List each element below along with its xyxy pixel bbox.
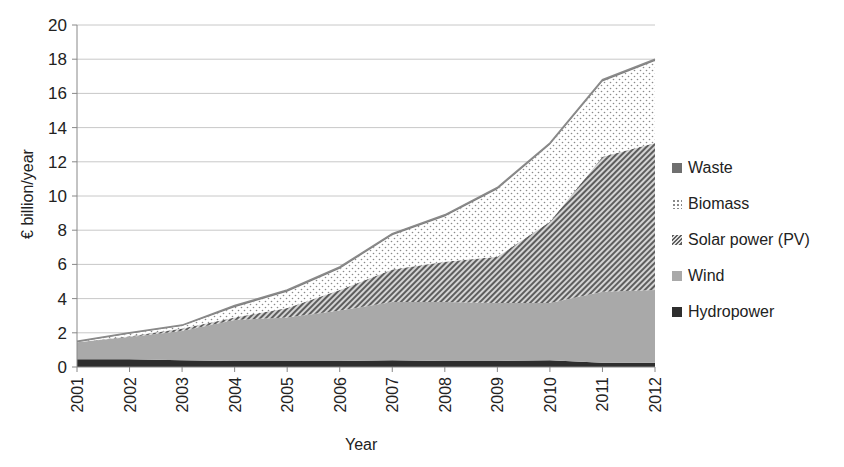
y-tick-label: 12: [48, 153, 67, 172]
legend-label: Waste: [688, 159, 733, 177]
y-tick-label: 10: [48, 187, 67, 206]
y-axis-label: € billion/year: [19, 124, 37, 264]
y-tick-label: 16: [48, 84, 67, 103]
x-tick-label: 2004: [227, 377, 244, 413]
area-series: [77, 59, 655, 367]
legend-item-biomass: Biomass: [672, 186, 810, 222]
y-tick-label: 2: [58, 324, 67, 343]
x-tick-label: 2012: [647, 377, 664, 413]
x-tick-label: 2006: [332, 377, 349, 413]
legend-swatch-icon: [672, 199, 682, 209]
legend-swatch-icon: [672, 307, 682, 317]
x-tick-label: 2011: [594, 377, 611, 412]
legend-swatch-icon: [672, 235, 682, 245]
y-tick-label: 6: [58, 255, 67, 274]
y-tick-label: 4: [58, 290, 67, 309]
x-tick-label: 2005: [279, 377, 296, 413]
x-tick-label: 2003: [174, 377, 191, 413]
legend-label: Biomass: [688, 195, 749, 213]
legend-swatch-icon: [672, 271, 682, 281]
legend-item-waste: Waste: [672, 150, 810, 186]
x-tick-label: 2008: [437, 377, 454, 413]
x-tick-label: 2007: [384, 377, 401, 413]
y-tick-label: 8: [58, 221, 67, 240]
legend-label: Solar power (PV): [688, 231, 810, 249]
legend-swatch-icon: [672, 163, 682, 173]
legend-item-wind: Wind: [672, 258, 810, 294]
y-tick-label: 18: [48, 50, 67, 69]
legend-label: Wind: [688, 267, 724, 285]
legend-label: Hydropower: [688, 303, 774, 321]
y-tick-label: 14: [48, 119, 67, 138]
legend: WasteBiomassSolar power (PV)WindHydropow…: [672, 150, 810, 330]
x-axis-label: Year: [345, 436, 377, 454]
y-tick-label: 0: [58, 358, 67, 377]
x-tick-label: 2001: [69, 377, 86, 413]
legend-item-hydropower: Hydropower: [672, 294, 810, 330]
x-tick-label: 2010: [542, 377, 559, 413]
x-tick-label: 2002: [122, 377, 139, 413]
legend-item-solar-power-pv: Solar power (PV): [672, 222, 810, 258]
y-tick-label: 20: [48, 16, 67, 35]
x-tick-label: 2009: [489, 377, 506, 413]
